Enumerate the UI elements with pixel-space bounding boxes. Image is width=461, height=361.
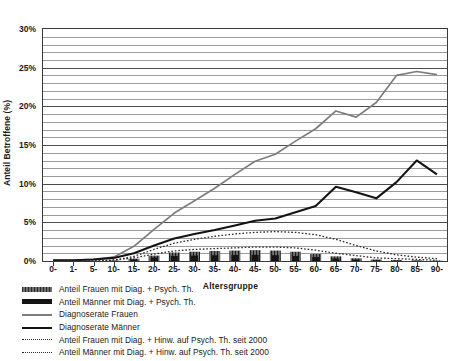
chart-figure: Anteil Betroffene (%) 0%5%10%15%20%25%30… xyxy=(0,0,461,361)
legend-item: Anteil Männer mit Diag. + Psych. Th. xyxy=(22,296,352,309)
legend-item-label: Diagnoserate Männer xyxy=(59,322,140,332)
bar xyxy=(191,256,198,261)
y-axis-tick-label: 25% xyxy=(19,63,36,73)
x-axis-tick-label: 0- xyxy=(49,264,57,274)
x-axis-tick-label: 70- xyxy=(350,264,362,274)
legend-item: Diagnoserate Frauen xyxy=(22,308,352,321)
legend-item: Anteil Frauen mit Diag. + Psych. Th. xyxy=(22,283,352,296)
bar xyxy=(373,260,380,261)
x-axis-tick-label: 10- xyxy=(108,264,120,274)
x-axis-tick-label: 55- xyxy=(289,264,301,274)
legend-item-label: Diagnoserate Frauen xyxy=(59,309,138,319)
x-axis-tick-label: 1- xyxy=(70,264,78,274)
x-axis-tick-label: 90- xyxy=(431,264,443,274)
x-axis-tick-label: 35- xyxy=(209,264,221,274)
bar xyxy=(312,257,319,261)
y-axis-tick-label: 15% xyxy=(19,140,36,150)
x-axis-tick-label: 30- xyxy=(188,264,200,274)
x-axis-tick-label: 80- xyxy=(390,264,402,274)
black-line-swatch xyxy=(22,322,52,333)
series-bars-maenner xyxy=(110,255,440,261)
chart-legend: Anteil Frauen mit Diag. + Psych. Th.Ante… xyxy=(22,283,352,359)
x-axis-tick-label: 65- xyxy=(330,264,342,274)
legend-item: Anteil Männer mit Diag. + Hinw. auf Psyc… xyxy=(22,346,352,359)
bar xyxy=(211,255,218,261)
x-axis-tick-label: 25- xyxy=(168,264,180,274)
bar xyxy=(353,260,360,261)
bar xyxy=(171,256,178,261)
x-axis-tick-label: 5- xyxy=(90,264,98,274)
x-axis-tick-labels: 0-1-5-10-15-20-25-30-35-40-45-50-55-60-6… xyxy=(0,264,461,280)
x-axis-tick-label: 50- xyxy=(269,264,281,274)
legend-item-label: Anteil Männer mit Diag. + Psych. Th. xyxy=(59,297,196,307)
y-axis-tick-label: 10% xyxy=(19,179,36,189)
series-line-line-black xyxy=(53,160,437,260)
solid-black-band-swatch xyxy=(22,296,52,307)
x-axis-tick-label: 85- xyxy=(411,264,423,274)
y-axis-tick-label: 20% xyxy=(19,101,36,111)
bar xyxy=(252,255,259,261)
series-line-line-gray xyxy=(53,72,437,261)
bar xyxy=(151,258,158,261)
x-axis-tick-label: 40- xyxy=(229,264,241,274)
bar xyxy=(292,256,299,261)
x-axis-tick-label: 15- xyxy=(128,264,140,274)
legend-item-label: Anteil Frauen mit Diag. + Psych. Th. xyxy=(59,284,194,294)
bar xyxy=(231,255,238,261)
x-axis-tick-label: 60- xyxy=(310,264,322,274)
legend-item-label: Anteil Frauen mit Diag. + Hinw. auf Psyc… xyxy=(59,335,267,345)
y-axis-tick-label: 5% xyxy=(24,217,36,227)
chart-series-canvas xyxy=(43,29,447,261)
dotted-line-swatch xyxy=(22,334,52,345)
plot-area xyxy=(42,28,448,262)
legend-item-label: Anteil Männer mit Diag. + Hinw. auf Psyc… xyxy=(59,347,269,357)
x-axis-tick-label: 20- xyxy=(148,264,160,274)
legend-item: Diagnoserate Männer xyxy=(22,321,352,334)
gray-line-swatch xyxy=(22,309,52,320)
x-axis-tick-label: 75- xyxy=(370,264,382,274)
y-axis-tick-label: 30% xyxy=(19,24,36,34)
bar xyxy=(272,255,279,261)
x-axis-tick-label: 45- xyxy=(249,264,261,274)
bar xyxy=(332,259,339,261)
dotted-line-swatch xyxy=(22,347,52,358)
series-line-dotted-upper xyxy=(53,232,437,261)
bar xyxy=(130,259,137,261)
legend-item: Anteil Frauen mit Diag. + Hinw. auf Psyc… xyxy=(22,333,352,346)
hatched-band-swatch xyxy=(22,284,52,295)
